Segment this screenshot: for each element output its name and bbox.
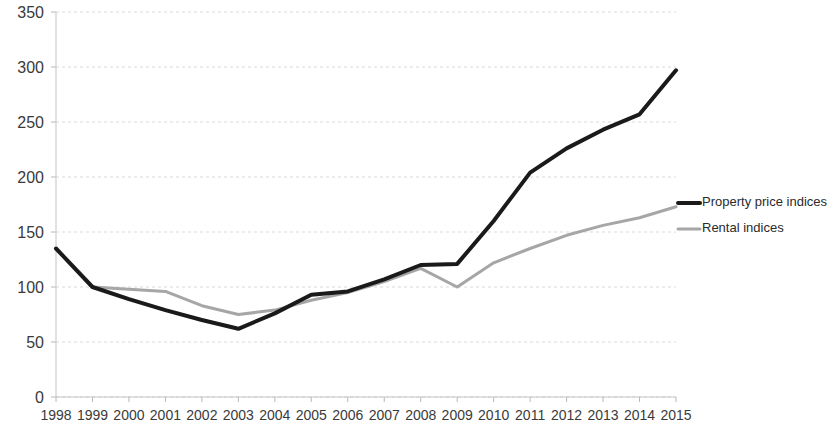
x-axis-tick-label: 2013 — [587, 407, 618, 423]
y-axis-ticks-group: 050100150200250300350 — [17, 4, 56, 406]
x-axis-tick-label: 2011 — [515, 407, 545, 423]
x-axis-tick-label: 2005 — [296, 407, 327, 423]
line-chart: 050100150200250300350 199819992000200120… — [0, 0, 828, 427]
y-axis-tick-label: 0 — [35, 389, 44, 406]
y-axis-tick-label: 50 — [26, 334, 44, 351]
legend-label-2: Rental indices — [702, 220, 784, 235]
x-axis-tick-label: 2012 — [551, 407, 582, 423]
y-axis-tick-label: 300 — [17, 59, 44, 76]
x-axis-tick-label: 2008 — [405, 407, 436, 423]
chart-canvas: 050100150200250300350 199819992000200120… — [0, 0, 828, 427]
x-axis-tick-label: 2014 — [624, 407, 655, 423]
legend-label-1: Property price indices — [702, 194, 827, 209]
x-axis-tick-label: 1998 — [40, 407, 71, 423]
x-axis-tick-label: 2003 — [223, 407, 254, 423]
y-axis-tick-label: 150 — [17, 224, 44, 241]
x-axis-tick-label: 2001 — [150, 407, 181, 423]
y-axis-tick-label: 200 — [17, 169, 44, 186]
gridlines-group — [56, 12, 676, 397]
y-axis-tick-label: 250 — [17, 114, 44, 131]
x-axis-tick-label: 2004 — [259, 407, 290, 423]
y-axis-tick-label: 100 — [17, 279, 44, 296]
x-axis-tick-label: 2000 — [113, 407, 144, 423]
chart-legend: Property price indicesRental indices — [678, 194, 827, 235]
x-axis-ticks-group: 1998199920002001200220032004200520062007… — [40, 397, 691, 423]
x-axis-tick-label: 2009 — [442, 407, 473, 423]
x-axis-tick-label: 2010 — [478, 407, 509, 423]
y-axis-tick-label: 350 — [17, 4, 44, 21]
x-axis-tick-label: 2006 — [332, 407, 363, 423]
series-line-2 — [56, 207, 676, 315]
x-axis-tick-label: 1999 — [77, 407, 108, 423]
x-axis-tick-label: 2002 — [186, 407, 217, 423]
x-axis-tick-label: 2015 — [660, 407, 691, 423]
series-group — [56, 70, 676, 329]
x-axis-tick-label: 2007 — [369, 407, 400, 423]
